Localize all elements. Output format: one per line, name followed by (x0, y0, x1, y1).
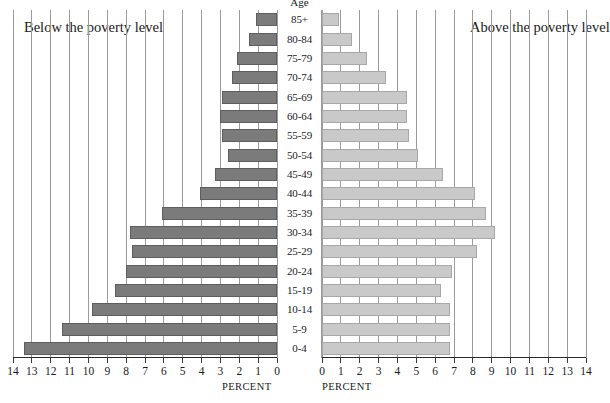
tickmark-right-11 (529, 358, 530, 363)
bar-left-5-9 (62, 323, 277, 336)
tickmark-right-8 (472, 358, 473, 363)
tickmark-left-8 (126, 358, 127, 363)
bar-row (322, 284, 586, 297)
bar-row (322, 33, 586, 46)
tickmark-left-1 (258, 358, 259, 363)
age-label-20-24: 20-24 (277, 265, 322, 278)
bar-right-80-84 (322, 33, 352, 46)
bar-row (13, 110, 277, 123)
tickmark-right-4 (397, 358, 398, 363)
bar-row (13, 265, 277, 278)
bar-left-30-34 (130, 226, 277, 239)
bar-row (13, 284, 277, 297)
age-label-65-69: 65-69 (277, 91, 322, 104)
chart-panel-below-poverty (13, 10, 277, 358)
tickmark-left-3 (220, 358, 221, 363)
bar-right-20-24 (322, 265, 452, 278)
tickmark-left-9 (107, 358, 108, 363)
bar-row (13, 149, 277, 162)
bar-left-70-74 (232, 71, 277, 84)
age-label-50-54: 50-54 (277, 149, 322, 162)
bar-left-35-39 (162, 207, 277, 220)
bar-right-35-39 (322, 207, 486, 220)
tickmark-left-2 (239, 358, 240, 363)
age-label-5-9: 5-9 (277, 323, 322, 336)
bar-left-60-64 (220, 110, 277, 123)
bar-row (322, 226, 586, 239)
tickmark-right-1 (340, 358, 341, 363)
bar-row (13, 13, 277, 26)
bar-row (322, 207, 586, 220)
bar-right-55-59 (322, 129, 409, 142)
bar-left-85+ (256, 13, 277, 26)
tickmark-right-10 (510, 358, 511, 363)
bar-right-25-29 (322, 245, 477, 258)
bar-left-20-24 (126, 265, 277, 278)
bar-left-45-49 (215, 168, 277, 181)
bar-left-25-29 (132, 245, 277, 258)
age-label-80-84: 80-84 (277, 33, 322, 46)
tickmark-right-14 (586, 358, 587, 363)
bar-left-80-84 (249, 33, 277, 46)
bar-row (322, 245, 586, 258)
bar-row (322, 110, 586, 123)
tickmark-left-4 (201, 358, 202, 363)
age-label-40-44: 40-44 (277, 187, 322, 200)
bar-row (13, 207, 277, 220)
age-category-column: 85+80-8475-7970-7465-6960-6455-5950-5445… (277, 10, 322, 358)
bar-left-40-44 (200, 187, 277, 200)
bar-right-30-34 (322, 226, 495, 239)
tickmark-left-10 (88, 358, 89, 363)
tickmark-left-5 (182, 358, 183, 363)
age-label-10-14: 10-14 (277, 303, 322, 316)
bar-row (322, 187, 586, 200)
tickmark-right-7 (454, 358, 455, 363)
bar-row (322, 323, 586, 336)
bar-row (13, 187, 277, 200)
age-label-75-79: 75-79 (277, 52, 322, 65)
bar-row (13, 71, 277, 84)
bar-right-50-54 (322, 149, 418, 162)
bar-row (322, 265, 586, 278)
bar-row (322, 303, 586, 316)
bar-right-70-74 (322, 71, 386, 84)
bar-right-45-49 (322, 168, 443, 181)
tickmark-left-0 (277, 358, 278, 363)
bar-row (13, 226, 277, 239)
x-axis-label-right: PERCENT (322, 381, 371, 392)
bar-left-10-14 (92, 303, 277, 316)
bar-row (13, 33, 277, 46)
bar-row (13, 91, 277, 104)
bar-row (13, 245, 277, 258)
tickmark-right-5 (416, 358, 417, 363)
bar-right-60-64 (322, 110, 407, 123)
bar-row (13, 129, 277, 142)
bar-right-40-44 (322, 187, 475, 200)
bar-right-5-9 (322, 323, 450, 336)
tickmark-right-2 (359, 358, 360, 363)
age-label-15-19: 15-19 (277, 284, 322, 297)
tick-label-left-0: 0 (266, 365, 288, 377)
age-label-70-74: 70-74 (277, 71, 322, 84)
tickmark-right-9 (491, 358, 492, 363)
bar-row (13, 168, 277, 181)
bar-left-50-54 (228, 149, 277, 162)
tickmark-right-3 (378, 358, 379, 363)
age-label-45-49: 45-49 (277, 168, 322, 181)
bar-left-75-79 (237, 52, 277, 65)
bar-right-75-79 (322, 52, 367, 65)
bar-right-0-4 (322, 342, 450, 355)
age-label-55-59: 55-59 (277, 129, 322, 142)
bar-right-15-19 (322, 284, 441, 297)
x-axis-ticks-left: 14131211109876543210 (13, 358, 277, 364)
tickmark-left-11 (69, 358, 70, 363)
bar-row (322, 168, 586, 181)
age-label-0-4: 0-4 (277, 342, 322, 355)
age-label-30-34: 30-34 (277, 226, 322, 239)
bar-right-10-14 (322, 303, 450, 316)
tickmark-left-12 (50, 358, 51, 363)
tickmark-left-13 (31, 358, 32, 363)
bar-left-15-19 (115, 284, 277, 297)
bar-right-65-69 (322, 91, 407, 104)
bar-row (13, 52, 277, 65)
